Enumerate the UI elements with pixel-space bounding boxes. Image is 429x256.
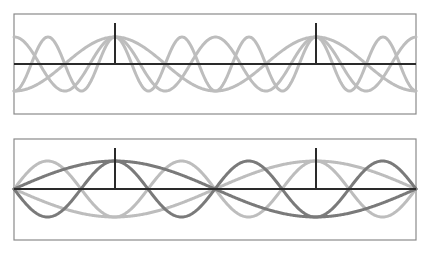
top-panel-cosine-modes [14,14,416,114]
standing-wave-diagram [0,0,429,256]
bottom-panel-sine-modes [14,139,416,240]
